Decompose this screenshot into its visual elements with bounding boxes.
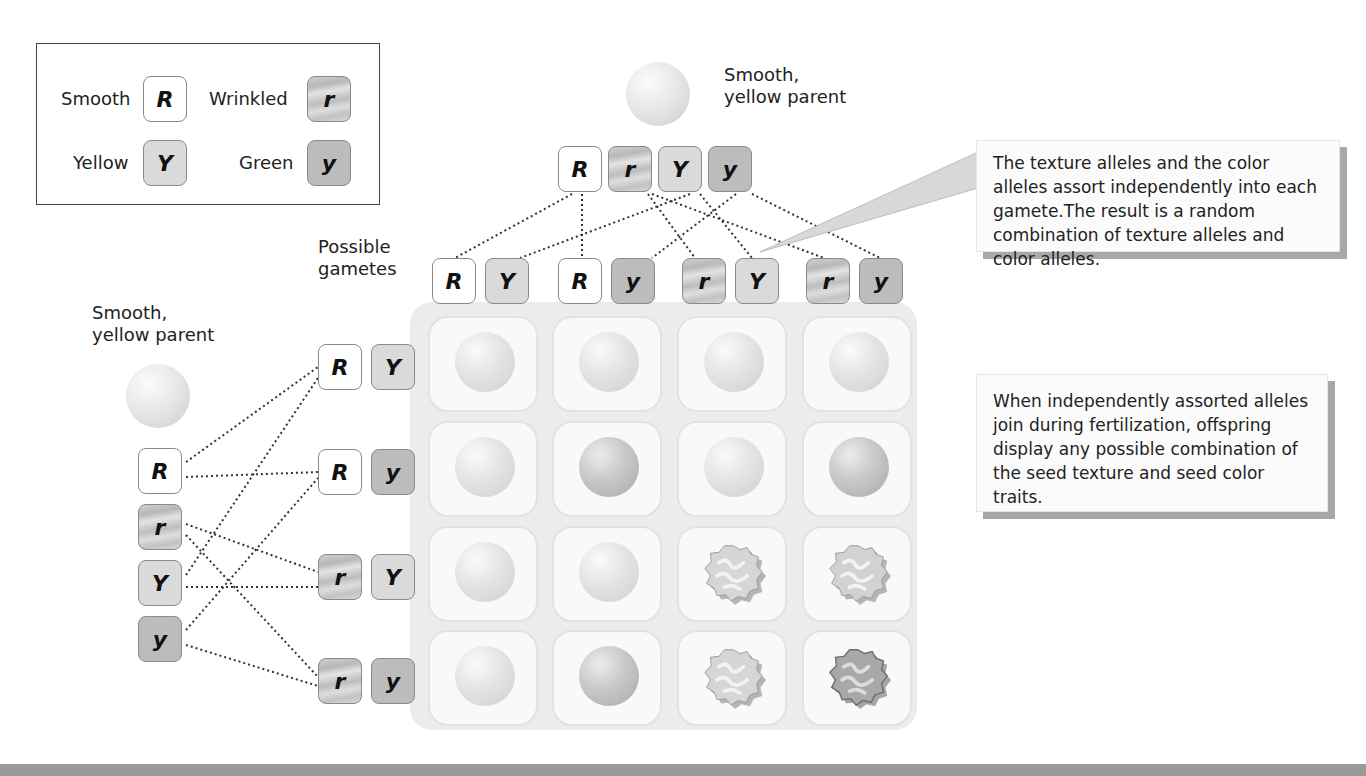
bottom-divider [0,764,1366,776]
assortment-callout: The texture alleles and the color allele… [976,140,1340,252]
fertilization-callout: When independently assorted alleles join… [976,374,1328,512]
